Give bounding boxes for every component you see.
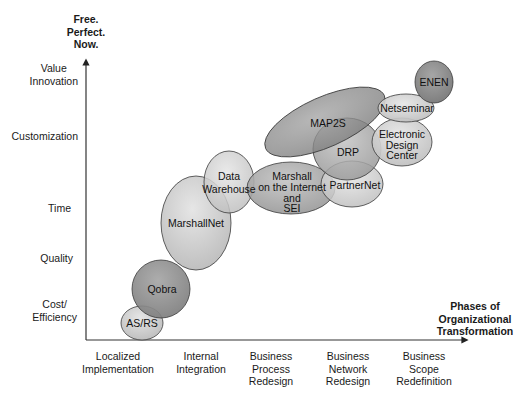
diagram-canvas: AS/RS Qobra MarshallNet Data Warehouse M… — [0, 0, 529, 406]
y-axis-title: Free. Perfect. Now. — [64, 13, 108, 51]
x-phase-line: Integration — [166, 363, 236, 376]
x-phase-line: Process — [236, 363, 306, 376]
x-phase-business-network-redesign: Business Network Redesign — [313, 350, 383, 388]
label-marshall-4: SEI — [284, 202, 301, 214]
x-phase-business-scope-redefinition: Business Scope Redefinition — [389, 350, 459, 388]
x-phase-line: Scope — [389, 363, 459, 376]
x-title-line: Phases of — [430, 300, 520, 313]
x-phase-line: Business — [389, 350, 459, 363]
x-phase-localized-implementation: Localized Implementation — [78, 350, 158, 375]
y-title-line: Free. — [64, 13, 108, 26]
y-level-line: Innovation — [30, 75, 78, 88]
x-title-line: Transformation — [430, 325, 520, 338]
x-phase-business-process-redesign: Business Process Redesign — [236, 350, 306, 388]
x-phase-line: Internal — [166, 350, 236, 363]
y-level-value-innovation: Value Innovation — [30, 62, 78, 87]
label-partnernet: PartnerNet — [330, 179, 381, 191]
x-phase-line: Network — [313, 363, 383, 376]
y-level-quality: Quality — [40, 252, 73, 265]
label-qobra: Qobra — [147, 283, 176, 295]
label-asrs: AS/RS — [126, 317, 158, 329]
y-level-line: Efficiency — [32, 311, 77, 324]
label-marshallnet: MarshallNet — [168, 217, 224, 229]
label-data-warehouse-2: Warehouse — [202, 183, 255, 195]
x-title-line: Organizational — [430, 313, 520, 326]
y-level-customization: Customization — [11, 130, 78, 143]
y-level-time: Time — [48, 202, 71, 215]
x-phase-line: Business — [313, 350, 383, 363]
ellipse-data-warehouse — [204, 151, 254, 213]
y-level-line: Cost/ — [32, 298, 77, 311]
y-title-line: Perfect. — [64, 26, 108, 39]
x-phase-internal-integration: Internal Integration — [166, 350, 236, 375]
x-axis-title: Phases of Organizational Transformation — [430, 300, 520, 338]
y-title-line: Now. — [64, 38, 108, 51]
y-level-line: Value — [30, 62, 78, 75]
y-level-line: Time — [48, 202, 71, 215]
x-phase-line: Redesign — [313, 375, 383, 388]
y-level-line: Quality — [40, 252, 73, 265]
x-phase-line: Implementation — [78, 363, 158, 376]
y-level-cost-efficiency: Cost/ Efficiency — [32, 298, 77, 323]
label-data-warehouse-1: Data — [218, 170, 240, 182]
x-phase-line: Localized — [78, 350, 158, 363]
label-map2s: MAP2S — [310, 117, 346, 129]
x-phase-line: Redesign — [236, 375, 306, 388]
label-edc-3: Center — [386, 149, 418, 161]
label-enen: ENEN — [419, 76, 448, 88]
x-phase-line: Redefinition — [389, 375, 459, 388]
label-drp: DRP — [337, 146, 359, 158]
label-netseminar: Netseminar — [380, 102, 434, 114]
y-level-line: Customization — [11, 130, 78, 143]
x-phase-line: Business — [236, 350, 306, 363]
